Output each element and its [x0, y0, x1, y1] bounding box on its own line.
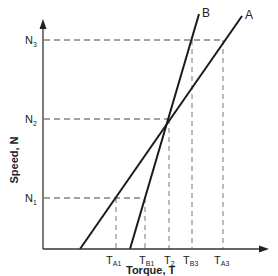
n3-label: N3: [25, 34, 37, 48]
n1-label: N1: [25, 192, 37, 206]
x-axis-label: Torque, T: [126, 264, 176, 276]
curve-b-label: B: [202, 6, 210, 20]
y-axis-arrow-icon: [40, 19, 47, 29]
n2-label: N2: [25, 113, 37, 127]
x-axis-arrow-icon: [259, 246, 269, 253]
curve-b: [130, 14, 199, 249]
ta3-label: TA3: [214, 254, 229, 267]
tb3-label: TB3: [183, 254, 198, 267]
y-axis-label: Speed, N: [8, 136, 20, 183]
curve-a: [80, 16, 242, 249]
speed-torque-diagram: A B N3 N2 N1 Speed, N TA1 TB1 T2 TB3 TA3…: [0, 0, 278, 276]
curve-a-label: A: [245, 8, 253, 22]
ta1-label: TA1: [106, 254, 121, 267]
